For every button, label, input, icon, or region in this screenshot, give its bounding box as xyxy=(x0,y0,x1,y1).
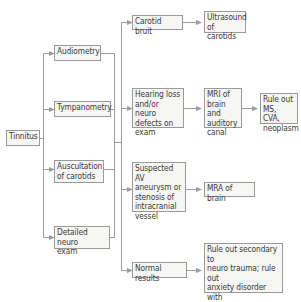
node-audiometry: Audiometry xyxy=(54,45,101,61)
node-mra-brain: MRA of brain xyxy=(204,182,255,197)
node-tympanometry: Tympanometry xyxy=(54,101,111,117)
node-auscultation: Auscultation of carotids xyxy=(54,160,104,183)
node-normal-results: Normal results xyxy=(132,262,187,278)
node-mri: MRI of brain and auditory canal xyxy=(204,88,242,128)
node-detailed-neuro-exam: Detailed neuro exam xyxy=(54,226,110,249)
node-tinnitus: Tinnitus xyxy=(6,130,40,146)
node-rule-out-ms: Rule out MS, CVA, neoplasm xyxy=(260,93,298,124)
node-hearing-loss: Hearing loss and/or neuro defects on exa… xyxy=(132,88,184,128)
node-ultrasound-carotids: Ultrasound of carotids xyxy=(204,11,246,33)
node-rule-out-secondary: Rule out secondary to neuro trauma; rule… xyxy=(204,243,283,293)
node-suspected-av: Suspected AV aneurysm or stenosis of int… xyxy=(132,162,186,212)
tinnitus-flowchart: Tinnitus Audiometry Tympanometry Auscult… xyxy=(0,0,301,302)
node-carotid-bruit: Carotid bruit xyxy=(132,15,183,30)
